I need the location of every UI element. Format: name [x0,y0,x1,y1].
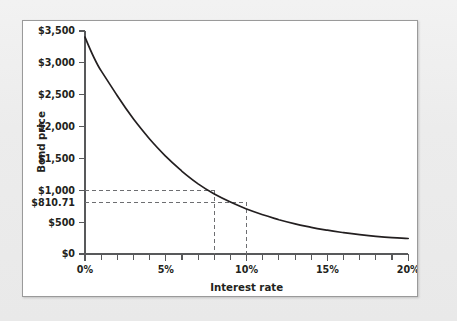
y-axis-ticks [79,31,85,254]
y-tick-label-500: $500 [48,217,75,228]
y-tick-label-3500: $3,500 [38,25,75,36]
x-tick-label-5: 5% [158,264,175,275]
x-tick-label-0: 0% [77,264,94,275]
y-tick-label-special-810: $810.71 [31,197,75,208]
x-tick-label-20: 20% [397,264,417,275]
y-tick-label-1000: $1,000 [38,185,75,196]
bond-price-curve [85,37,408,238]
bond-price-chart: $0 $500 $1,000 $1,500 $2,000 $2,500 $3,0… [23,21,417,296]
y-tick-label-3000: $3,000 [38,57,75,68]
x-tick-label-10: 10% [235,264,258,275]
figure-panel: $0 $500 $1,000 $1,500 $2,000 $2,500 $3,0… [22,20,418,297]
y-axis-title: Bond price [36,111,47,173]
x-axis-ticks [85,254,408,261]
reference-guides [85,190,247,254]
y-tick-label-2500: $2,500 [38,89,75,100]
x-tick-label-15: 15% [316,264,339,275]
y-tick-label-0: $0 [62,248,76,259]
x-axis-tick-labels: 0% 5% 10% 15% 20% [77,264,417,275]
x-axis-title: Interest rate [210,282,283,293]
